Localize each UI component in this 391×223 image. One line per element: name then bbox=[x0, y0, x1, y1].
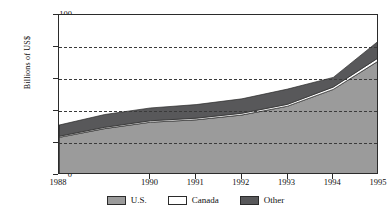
legend-label: U.S. bbox=[131, 196, 147, 205]
x-tick-label-1990: 1990 bbox=[127, 178, 171, 187]
x-tick-label-1993: 1993 bbox=[265, 178, 309, 187]
legend-label: Canada bbox=[192, 196, 219, 205]
x-tick-label-1988: 1988 bbox=[36, 178, 80, 187]
stacked-area-series bbox=[59, 15, 378, 174]
x-tick-label-1994: 1994 bbox=[310, 178, 354, 187]
x-tick-mark-1990 bbox=[149, 174, 150, 179]
chart-figure: Billions of US$ 020406080100 19881990199… bbox=[0, 0, 391, 223]
legend-swatch-icon bbox=[168, 196, 187, 205]
plot-area bbox=[58, 14, 378, 174]
gridline-60 bbox=[59, 79, 377, 80]
legend-swatch-icon bbox=[107, 196, 126, 205]
chart-legend: U.S.CanadaOther bbox=[0, 196, 391, 205]
x-tick-label-1995: 1995 bbox=[356, 178, 391, 187]
x-tick-mark-1994 bbox=[332, 174, 333, 179]
x-tick-mark-1992 bbox=[241, 174, 242, 179]
x-tick-mark-1991 bbox=[195, 174, 196, 179]
y-axis-title: Billions of US$ bbox=[23, 3, 32, 123]
x-tick-label-1992: 1992 bbox=[219, 178, 263, 187]
y-tick-mark-0 bbox=[53, 174, 58, 175]
x-tick-mark-1993 bbox=[287, 174, 288, 179]
gridline-20 bbox=[59, 143, 377, 144]
legend-item-other[interactable]: Other bbox=[240, 196, 285, 205]
x-tick-label-1991: 1991 bbox=[173, 178, 217, 187]
legend-item-canada[interactable]: Canada bbox=[168, 196, 219, 205]
gridline-40 bbox=[59, 111, 377, 112]
legend-swatch-icon bbox=[240, 196, 259, 205]
legend-item-us[interactable]: U.S. bbox=[107, 196, 147, 205]
gridline-80 bbox=[59, 47, 377, 48]
legend-label: Other bbox=[264, 196, 285, 205]
